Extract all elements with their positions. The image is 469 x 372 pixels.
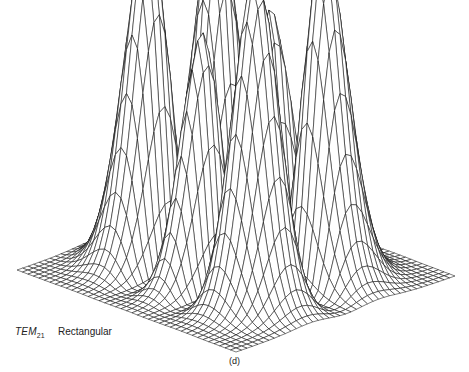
panel-label: (d) (229, 356, 240, 366)
mode-label: TEM21 (15, 326, 45, 339)
mode-subscript: 21 (37, 332, 45, 339)
surface-mesh (17, 0, 455, 352)
wireframe-surface-plot (0, 0, 469, 372)
geometry-label: Rectangular (58, 326, 112, 337)
